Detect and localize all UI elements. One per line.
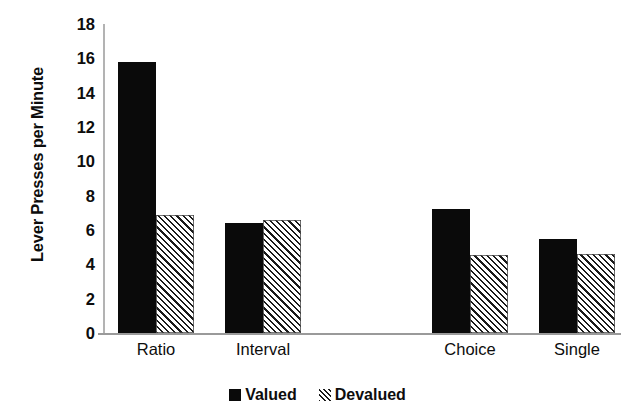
bar-choice-valued: [432, 209, 470, 333]
legend-entry-valued: Valued: [229, 386, 297, 404]
y-tick-label: 12: [0, 119, 95, 136]
bar-single-devalued: [577, 254, 615, 333]
bar-ratio-devalued: [156, 215, 194, 333]
bar-choice-devalued: [470, 255, 508, 333]
x-label-interval: Interval: [236, 340, 290, 359]
y-tick-label: 2: [0, 290, 95, 307]
y-tick-label: 4: [0, 256, 95, 273]
bar-single-valued: [539, 239, 577, 333]
bar-interval-valued: [225, 223, 263, 333]
y-tick-label: 14: [0, 84, 95, 101]
bar-chart-figure: Lever Presses per Minute 024681012141618…: [0, 0, 635, 419]
hatched-square-icon: [319, 389, 331, 401]
y-tick-label: 18: [0, 16, 95, 33]
y-axis-line: [103, 24, 105, 333]
legend-label: Devalued: [335, 386, 406, 404]
y-tick-label: 16: [0, 50, 95, 67]
y-tick-label: 10: [0, 153, 95, 170]
y-tick-label: 6: [0, 222, 95, 239]
legend-label: Valued: [245, 386, 297, 404]
x-label-single: Single: [554, 340, 600, 359]
chart-legend: ValuedDevalued: [0, 386, 635, 404]
x-label-choice: Choice: [444, 340, 495, 359]
y-tick-label: 0: [0, 325, 95, 342]
x-axis-line: [98, 333, 621, 335]
bar-interval-devalued: [263, 220, 301, 333]
y-tick-label: 8: [0, 187, 95, 204]
legend-entry-devalued: Devalued: [319, 386, 406, 404]
bar-ratio-valued: [118, 62, 156, 333]
plot-area: [103, 24, 618, 333]
x-axis-category-labels: RatioIntervalChoiceSingle: [0, 340, 635, 370]
x-label-ratio: Ratio: [137, 340, 176, 359]
filled-square-icon: [229, 389, 241, 401]
